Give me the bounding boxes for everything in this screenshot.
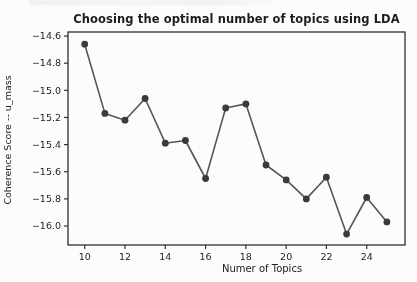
data-point <box>263 162 270 169</box>
x-tick-label: 10 <box>79 251 91 262</box>
data-point <box>182 137 189 144</box>
data-point <box>102 110 109 117</box>
data-point <box>323 174 330 181</box>
y-tick-label: −15.2 <box>32 112 61 123</box>
x-tick-label: 24 <box>361 251 373 262</box>
data-point <box>343 231 350 238</box>
data-point <box>243 101 250 108</box>
x-tick-label: 18 <box>240 251 252 262</box>
data-point <box>363 194 370 201</box>
y-tick-label: −16.0 <box>32 220 61 231</box>
data-point <box>122 117 129 124</box>
y-tick-label: −15.6 <box>32 166 61 177</box>
chart-canvas: 1012141618202224−14.6−14.8−15.0−15.2−15.… <box>0 0 417 282</box>
data-point <box>384 219 391 226</box>
y-tick-label: −14.8 <box>32 57 61 68</box>
y-tick-label: −15.8 <box>32 193 61 204</box>
x-tick-label: 16 <box>200 251 212 262</box>
y-tick-label: −14.6 <box>32 30 61 41</box>
y-tick-label: −15.4 <box>32 139 61 150</box>
chart-photo: Choosing the optimal number of topics us… <box>0 0 417 282</box>
data-point <box>222 105 229 112</box>
x-tick-label: 12 <box>119 251 131 262</box>
y-tick-label: −15.0 <box>32 85 61 96</box>
data-point <box>283 177 290 184</box>
data-point <box>303 196 310 203</box>
x-tick-label: 22 <box>320 251 332 262</box>
x-tick-label: 14 <box>159 251 171 262</box>
coherence-line <box>85 44 387 234</box>
x-tick-label: 20 <box>280 251 292 262</box>
data-point <box>81 41 88 48</box>
data-point <box>142 95 149 102</box>
data-point <box>202 175 209 182</box>
axes-frame <box>68 32 405 245</box>
data-point <box>162 140 169 147</box>
